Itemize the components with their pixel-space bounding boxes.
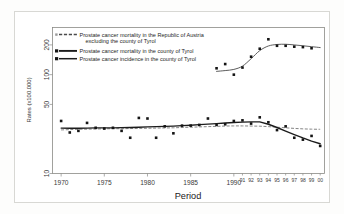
chart-legend: Prostate cancer mortality in the Republi… [55, 32, 205, 62]
x-tick-label: 95 [274, 177, 280, 183]
y-axis-tick-labels: 2001005010 [43, 39, 50, 177]
data-point [189, 124, 192, 127]
x-tick-label: 92 [248, 177, 254, 183]
x-tick-label: 98 [300, 177, 306, 183]
x-tick-label: 1975 [97, 179, 112, 186]
x-tick-label: 99 [309, 177, 315, 183]
data-point [224, 123, 227, 126]
data-point [250, 122, 253, 125]
data-point [68, 131, 71, 134]
data-point [319, 145, 322, 148]
data-point [129, 136, 132, 139]
legend-label-austria-mortality-line1: Prostate cancer mortality in the Republi… [80, 32, 205, 38]
data-point [241, 66, 244, 69]
data-point [103, 127, 106, 130]
legend-entry-tyrol-mortality: Prostate cancer mortality in the county … [55, 48, 193, 54]
figure-container: 2001005010 19701975198019851990919293949… [0, 0, 344, 214]
x-tick-label: 00 [317, 177, 323, 183]
x-tick-label: 97 [291, 177, 297, 183]
data-point [276, 44, 279, 47]
y-tick-label: 10 [43, 170, 50, 178]
data-point [241, 119, 244, 122]
tyrol-mortality-points [60, 116, 322, 147]
x-tick-label: 96 [283, 177, 289, 183]
x-tick-label: 1970 [54, 179, 69, 186]
data-point [258, 116, 261, 119]
data-point [224, 63, 227, 66]
series-tyrol-incidence [215, 38, 320, 76]
data-point [112, 127, 115, 130]
series-tyrol-mortality [60, 116, 322, 147]
data-point [172, 132, 175, 135]
data-point [284, 44, 287, 47]
x-tick-label: 93 [257, 177, 263, 183]
prostate-cancer-rates-chart: 2001005010 19701975198019851990919293949… [0, 0, 344, 214]
data-point [250, 55, 253, 58]
data-point [155, 136, 158, 139]
data-point [198, 124, 201, 127]
legend-label-austria-mortality-line2: excluding the county of Tyrol [86, 38, 156, 44]
data-point [302, 138, 305, 141]
y-tick-label: 50 [43, 100, 50, 108]
data-point [181, 124, 184, 127]
data-point [302, 46, 305, 49]
data-point [146, 117, 149, 120]
legend-marker-square-filled-incidence [55, 57, 58, 60]
data-point [77, 130, 80, 133]
data-point [284, 125, 287, 128]
data-point [86, 122, 89, 125]
data-point [94, 127, 97, 130]
data-point [267, 121, 270, 124]
x-tick-label: 1985 [183, 179, 198, 186]
data-point [276, 129, 279, 132]
data-point [310, 135, 313, 138]
legend-label-tyrol-mortality: Prostate cancer mortality in the county … [80, 48, 194, 54]
y-axis-ticks [50, 45, 53, 174]
legend-marker-square-open [55, 33, 57, 35]
data-point [163, 125, 166, 128]
data-point [215, 67, 218, 70]
legend-entry-tyrol-incidence: Prostate cancer incidence in the county … [55, 56, 196, 62]
data-point [120, 130, 123, 133]
data-point [258, 47, 261, 50]
data-point [233, 73, 236, 76]
y-tick-label: 100 [43, 69, 50, 80]
data-point [233, 120, 236, 123]
x-tick-label: 94 [266, 177, 272, 183]
data-point [215, 124, 218, 127]
data-point [293, 45, 296, 48]
y-axis-title: Rates (x100.000) [26, 77, 32, 122]
y-tick-label: 200 [43, 39, 50, 50]
x-axis-title: Period [175, 191, 202, 201]
x-axis-ticks [61, 174, 320, 177]
x-axis-tick-labels: 1970197519801985199091929394959697989900 [54, 177, 323, 186]
x-tick-label: 91 [240, 177, 246, 183]
data-point [293, 136, 296, 139]
x-tick-label: 1980 [140, 179, 155, 186]
data-point [138, 117, 141, 120]
data-point [207, 117, 210, 120]
data-point [60, 120, 63, 123]
legend-entry-austria-mortality: Prostate cancer mortality in the Republi… [55, 32, 204, 45]
legend-label-tyrol-incidence: Prostate cancer incidence in the county … [80, 56, 196, 62]
data-point [267, 38, 270, 41]
tyrol-incidence-line [217, 44, 321, 71]
data-point [310, 47, 313, 50]
legend-marker-square-filled-mortality [55, 49, 58, 52]
